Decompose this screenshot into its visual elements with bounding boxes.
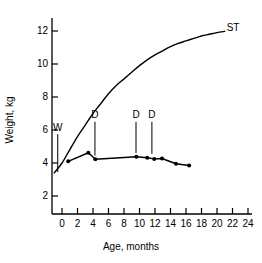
x-axis-ticks (62, 208, 248, 214)
y-tick-label: 8 (30, 92, 48, 102)
data-point-marker (134, 155, 138, 159)
patient-curve-path (68, 153, 189, 166)
y-tick-label: 2 (30, 191, 48, 201)
data-point-marker (174, 162, 178, 166)
data-point-marker (160, 157, 164, 161)
x-axis-title: Age, months (0, 242, 262, 252)
weight-growth-chart: Weight, kg Age, months 24681012 02468101… (0, 0, 262, 263)
x-tick-label: 24 (239, 219, 257, 229)
y-tick-label: 6 (30, 125, 48, 135)
st-series-label: ST (227, 23, 240, 33)
y-tick-label: 12 (30, 26, 48, 36)
data-point-marker (86, 151, 90, 155)
data-point-marker (145, 156, 149, 160)
data-point-marker (93, 157, 97, 161)
annotation-label-d: D (85, 110, 105, 120)
patient-weight-curve (66, 151, 191, 168)
data-point-marker (187, 163, 191, 167)
st-growth-curve (54, 31, 225, 173)
annotation-label-d: D (142, 110, 162, 120)
data-point-marker (152, 157, 156, 161)
st-curve-path (54, 31, 225, 173)
annotation-label-w: W (48, 123, 68, 133)
y-tick-label: 4 (30, 158, 48, 168)
y-tick-label: 10 (30, 59, 48, 69)
data-point-marker (66, 159, 70, 163)
y-axis-title: Weight, kg (4, 96, 15, 143)
y-axis-title-wrap: Weight, kg (2, 78, 16, 162)
